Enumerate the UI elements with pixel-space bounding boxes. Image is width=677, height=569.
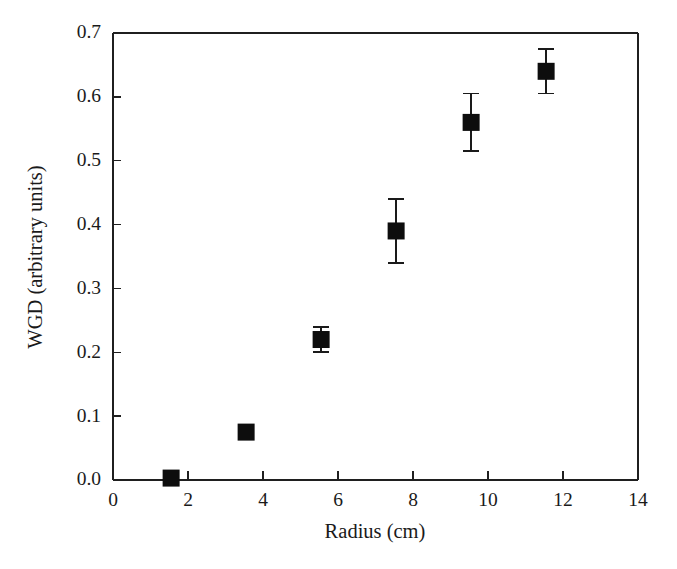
x-tick-label: 8 — [408, 489, 418, 510]
data-point — [238, 424, 255, 441]
y-tick-label: 0.3 — [77, 277, 101, 298]
data-point-marker — [238, 424, 255, 441]
data-point-marker — [538, 63, 555, 80]
data-point-marker — [163, 470, 180, 487]
y-tick-label: 0.6 — [77, 85, 102, 106]
data-series-wgd — [163, 49, 555, 487]
y-tick-label: 0.2 — [77, 341, 101, 362]
data-point-marker — [463, 114, 480, 131]
x-tick-label: 12 — [553, 489, 573, 510]
x-tick-label: 6 — [333, 489, 343, 510]
x-axis-ticks: 02468101214 — [108, 471, 648, 510]
x-tick-label: 0 — [108, 489, 118, 510]
x-tick-label: 10 — [478, 489, 498, 510]
x-tick-label: 4 — [258, 489, 268, 510]
x-tick-label: 14 — [628, 489, 648, 510]
figure-scatter-plot: 0.00.10.20.30.40.50.60.7 02468101214 Rad… — [0, 0, 677, 569]
y-axis-title: WGD (arbitrary units) — [24, 165, 47, 348]
data-point — [313, 327, 330, 353]
data-point — [388, 199, 405, 263]
plot-frame — [113, 33, 638, 480]
y-axis-ticks: 0.00.10.20.30.40.50.60.7 — [77, 21, 121, 489]
y-tick-label: 0.7 — [77, 21, 102, 42]
data-point-marker — [388, 222, 405, 239]
data-point — [163, 470, 180, 487]
data-point — [538, 49, 555, 94]
y-tick-label: 0.5 — [77, 149, 101, 170]
data-point — [463, 94, 480, 151]
x-tick-label: 2 — [183, 489, 193, 510]
x-axis-title: Radius (cm) — [325, 520, 426, 543]
data-point-marker — [313, 331, 330, 348]
plot-canvas: 0.00.10.20.30.40.50.60.7 02468101214 Rad… — [0, 0, 677, 569]
y-tick-label: 0.1 — [77, 405, 101, 426]
y-tick-label: 0.0 — [77, 468, 101, 489]
y-tick-label: 0.4 — [77, 213, 102, 234]
